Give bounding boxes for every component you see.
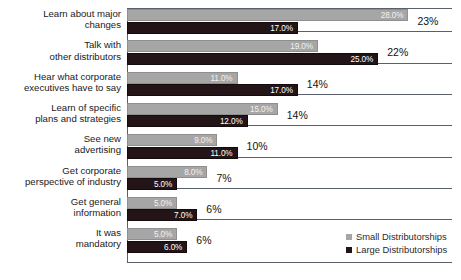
chart-row [0,72,461,103]
chart-row [0,134,461,165]
chart-legend: Small Distributorships Large Distributor… [346,230,447,256]
legend-label-small: Small Distributorships [356,231,447,242]
chart-row [0,40,461,71]
chart-row [0,197,461,228]
legend-item-small: Small Distributorships [346,230,447,243]
legend-label-large: Large Distributorships [356,244,447,255]
legend-swatch-large-icon [346,247,352,253]
chart-row [0,166,461,197]
bar-chart: Learn about major changes28.0%17.0%23%Ta… [0,0,461,280]
legend-item-large: Large Distributorships [346,243,447,256]
chart-row [0,103,461,134]
chart-row [0,9,461,40]
legend-swatch-small-icon [346,234,352,240]
